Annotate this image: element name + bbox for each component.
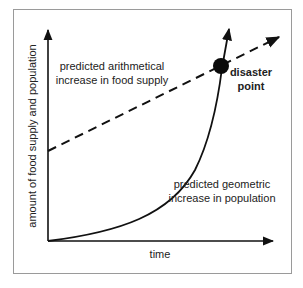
food-annotation-line1: predicted arithmetical [60, 60, 165, 72]
disaster-label-line2: point [238, 80, 265, 92]
disaster-point-marker [213, 58, 229, 74]
population-annotation-line1: predicted geometric [174, 178, 271, 190]
diagram-frame [14, 10, 292, 274]
x-axis-label: time [150, 248, 171, 260]
population-annotation-line2: increase in population [168, 192, 275, 204]
malthus-diagram: predicted arithmetical increase in food … [0, 0, 303, 288]
food-annotation-line2: increase in food supply [56, 74, 169, 86]
y-axis-label: amount of food supply and population [26, 44, 38, 227]
disaster-label-line1: disaster [230, 66, 273, 78]
